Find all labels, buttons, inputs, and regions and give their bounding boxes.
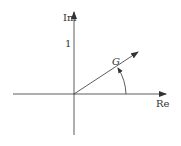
complex-plane-diagram: Im 1 G Re [0,0,181,146]
real-axis-label: Re [156,98,170,109]
vector-label: G [112,56,120,67]
imaginary-axis-label: Im [63,12,77,23]
vector-g [74,52,138,94]
tick-label-one: 1 [65,38,71,49]
angle-arc [118,68,126,94]
